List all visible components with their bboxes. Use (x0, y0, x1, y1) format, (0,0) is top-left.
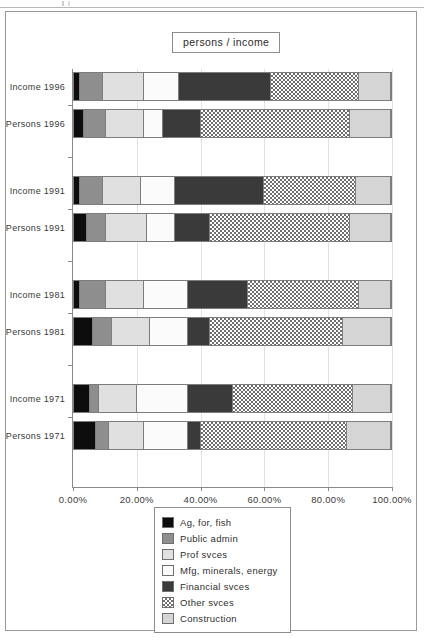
bar-segment-other (248, 281, 359, 308)
bar-segment-other (201, 110, 350, 137)
bar-segment-con (350, 110, 391, 137)
bar-row: Persons 1981 (73, 317, 392, 346)
x-axis-tick-label: 100.00% (372, 494, 412, 505)
bar-segment-pub (87, 214, 106, 241)
chart-frame: persons / income 0.00%20.00%40.00%60.00%… (5, 11, 417, 631)
bar-segment-prof (99, 385, 137, 412)
bar-segment-fin (163, 110, 201, 137)
x-axis-tick-label: 80.00% (311, 494, 345, 505)
gridline (392, 69, 393, 487)
legend-label: Mfg, minerals, energy (180, 565, 278, 576)
bar-segment-prof (112, 318, 150, 345)
y-axis-category-label: Persons 1996 (6, 119, 65, 129)
y-axis-tick (68, 313, 73, 314)
bar-segment-prof (106, 110, 144, 137)
bar-segment-pub (80, 177, 102, 204)
legend-swatch-ag (162, 517, 174, 528)
bar-segment-pub (84, 110, 106, 137)
legend-swatch-mfg (162, 565, 174, 576)
bar-segment-prof (109, 422, 144, 449)
legend-item[interactable]: Other svces (162, 594, 278, 610)
y-axis-category-label: Persons 1991 (6, 223, 65, 233)
scan-artifact (62, 1, 84, 6)
bar-segment-con (343, 318, 391, 345)
legend-label: Public admin (180, 533, 238, 544)
legend-swatch-con (162, 613, 174, 624)
bar-segment-other (264, 177, 356, 204)
bar-segment-other (210, 214, 349, 241)
x-axis-tick-label: 40.00% (184, 494, 218, 505)
y-axis-category-label: Income 1996 (10, 82, 65, 92)
y-axis-category-label: Income 1991 (10, 186, 65, 196)
bar-segment-mfg (144, 110, 163, 137)
x-axis-tick-label: 0.00% (59, 494, 87, 505)
bar-segment-ag (74, 318, 93, 345)
bar-segment-mfg (150, 318, 188, 345)
legend-label: Prof svces (180, 549, 227, 560)
legend-label: Financial svces (180, 581, 249, 592)
bar-segment-prof (103, 177, 141, 204)
bar-row: Persons 1971 (73, 421, 392, 450)
bar-row: Income 1981 (73, 280, 392, 309)
legend-swatch-fin (162, 581, 174, 592)
bar-segment-pub (96, 422, 109, 449)
x-axis-tick (264, 487, 265, 491)
x-axis-tick (137, 487, 138, 491)
legend-item[interactable]: Mfg, minerals, energy (162, 562, 278, 578)
legend-swatch-prof (162, 549, 174, 560)
bar-segment-fin (188, 385, 232, 412)
legend-swatch-other (162, 597, 174, 608)
y-axis-tick (68, 105, 73, 106)
bar-segment-prof (103, 73, 144, 100)
bar-segment-prof (106, 214, 147, 241)
bar-segment-ag (74, 385, 90, 412)
bar-segment-fin (175, 177, 264, 204)
scan-line (0, 7, 424, 8)
bar-segment-mfg (144, 281, 188, 308)
bar-segment-pub (80, 73, 102, 100)
bar-segment-con (359, 73, 391, 100)
y-axis-tick (68, 365, 73, 366)
y-axis-tick (68, 209, 73, 210)
y-axis-tick (68, 261, 73, 262)
bar-segment-con (350, 214, 391, 241)
bar-segment-mfg (147, 214, 176, 241)
y-axis-category-label: Income 1981 (10, 290, 65, 300)
bar-segment-mfg (141, 177, 176, 204)
bar-row: Persons 1996 (73, 109, 392, 138)
bar-segment-pub (93, 318, 112, 345)
x-axis-tick-label: 20.00% (120, 494, 154, 505)
legend-item[interactable]: Construction (162, 610, 278, 626)
bar-segment-other (271, 73, 360, 100)
bar-segment-other (233, 385, 353, 412)
bar-segment-pub (90, 385, 100, 412)
bar-row: Income 1991 (73, 176, 392, 205)
bar-segment-fin (179, 73, 271, 100)
chart-title: persons / income (172, 32, 280, 53)
x-axis-tick (328, 487, 329, 491)
bar-segment-ag (74, 110, 84, 137)
bar-segment-other (210, 318, 343, 345)
bar-segment-mfg (137, 385, 188, 412)
legend-label: Other svces (180, 597, 234, 608)
legend: Ag, for, fishPublic adminProf svcesMfg, … (154, 507, 291, 633)
bar-segment-mfg (144, 73, 179, 100)
x-axis-line (73, 487, 392, 488)
bar-segment-prof (106, 281, 144, 308)
bar-segment-fin (188, 422, 201, 449)
y-axis-category-label: Income 1971 (10, 394, 65, 404)
y-axis-category-label: Persons 1971 (6, 431, 65, 441)
bar-segment-fin (188, 318, 210, 345)
legend-item[interactable]: Prof svces (162, 546, 278, 562)
bar-row: Persons 1991 (73, 213, 392, 242)
legend-item[interactable]: Financial svces (162, 578, 278, 594)
bar-segment-mfg (144, 422, 188, 449)
bar-segment-con (356, 177, 391, 204)
bar-segment-fin (188, 281, 248, 308)
bar-segment-con (353, 385, 391, 412)
bar-segment-fin (175, 214, 210, 241)
x-axis-tick (201, 487, 202, 491)
bar-row: Income 1996 (73, 72, 392, 101)
legend-item[interactable]: Ag, for, fish (162, 514, 278, 530)
legend-item[interactable]: Public admin (162, 530, 278, 546)
